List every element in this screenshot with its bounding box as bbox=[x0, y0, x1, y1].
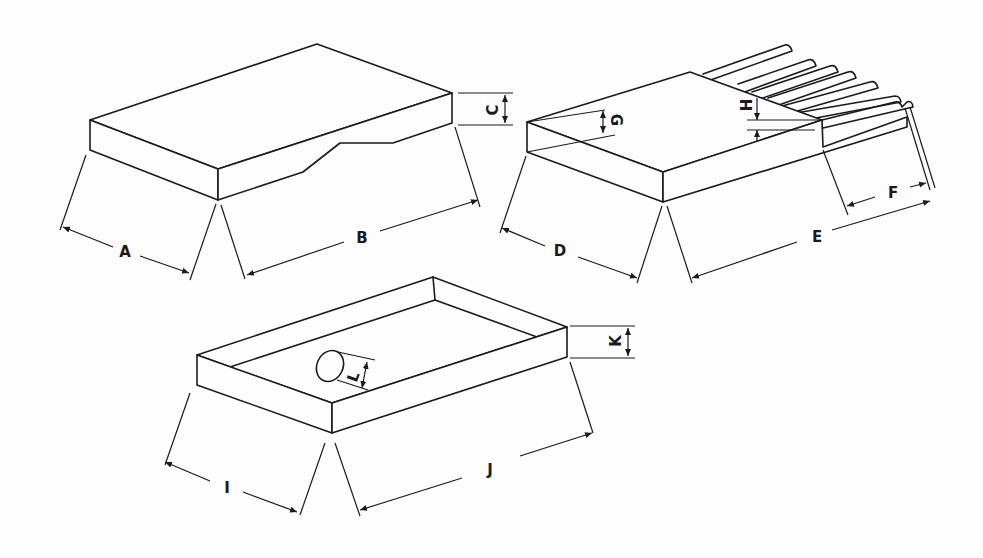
label-h: H bbox=[738, 99, 756, 112]
dimension-line-d bbox=[502, 228, 545, 246]
dimension-line-i bbox=[165, 462, 210, 481]
dimension-line-e bbox=[692, 242, 797, 278]
label-c: C bbox=[484, 104, 502, 115]
label-i: I bbox=[224, 479, 230, 497]
dimension-line-a bbox=[63, 227, 113, 247]
label-k: K bbox=[607, 334, 625, 347]
label-g: G bbox=[607, 114, 625, 126]
dimension-line-f bbox=[847, 197, 875, 206]
dimension-line-b bbox=[247, 242, 344, 275]
figure-corrugated-sheet: G H D E F bbox=[500, 45, 935, 283]
label-j: J bbox=[486, 461, 493, 479]
figure-tray: L K I J bbox=[165, 277, 635, 516]
figure-flat-sheet: C A B bbox=[60, 44, 513, 280]
label-f: F bbox=[888, 184, 898, 202]
label-e: E bbox=[812, 228, 822, 246]
label-b: B bbox=[356, 229, 367, 247]
diagram-canvas: C A B G bbox=[0, 0, 983, 558]
dimension-line-j bbox=[360, 478, 462, 510]
label-a: A bbox=[119, 243, 131, 261]
label-d: D bbox=[554, 242, 566, 260]
